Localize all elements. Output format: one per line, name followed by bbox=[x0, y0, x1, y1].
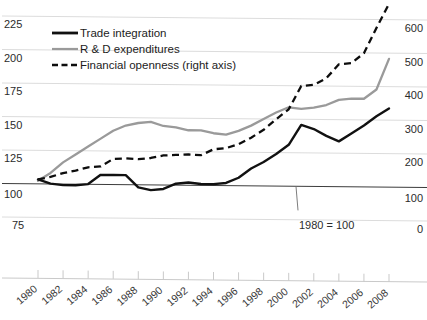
annotation-leader-line bbox=[296, 186, 298, 210]
left-axis-tick-label: 75 bbox=[12, 219, 24, 231]
x-axis-tick-label: 1980 bbox=[14, 282, 40, 306]
chart-container: 22520017515012510075 6005004003002001000… bbox=[0, 0, 427, 320]
x-axis-tick-label: 1998 bbox=[239, 285, 265, 309]
annotation-1980-equals-100: 1980 = 100 bbox=[299, 219, 354, 231]
right-axis-tick-label: 400 bbox=[405, 89, 423, 101]
left-axis-tick-label: 175 bbox=[4, 85, 22, 97]
left-axis-tick-label: 125 bbox=[4, 152, 22, 164]
right-axis-tick-label: 100 bbox=[405, 192, 423, 204]
x-axis-tick-label: 2008 bbox=[365, 286, 391, 310]
series-line-trade-integration bbox=[38, 108, 389, 190]
x-axis-tick-label: 2002 bbox=[289, 285, 315, 309]
gridline bbox=[2, 117, 427, 121]
x-axis-tick-label: 2004 bbox=[315, 286, 341, 310]
x-axis-tick-label: 1990 bbox=[139, 284, 165, 308]
x-axis-tick-label: 1994 bbox=[189, 284, 215, 308]
x-axis-line bbox=[2, 278, 427, 282]
right-axis-tick-label: 600 bbox=[405, 22, 423, 34]
right-axis-tick-label: 500 bbox=[405, 56, 423, 68]
x-axis-line bbox=[2, 270, 427, 282]
left-axis-tick-label: 100 bbox=[4, 188, 22, 200]
right-axis-tick-labels: 6005004003002001000 bbox=[405, 22, 423, 235]
x-axis-tick-labels: 1980198219841986198819901992199419961998… bbox=[14, 282, 391, 310]
x-axis-tick-label: 1988 bbox=[114, 283, 140, 307]
x-axis-tick-label: 1992 bbox=[164, 284, 190, 308]
x-axis-tick-label: 2006 bbox=[340, 286, 366, 310]
right-axis-tick-label: 300 bbox=[405, 123, 423, 135]
x-axis-tick-label: 1984 bbox=[64, 283, 90, 307]
legend: Trade integration R & D expenditures Fin… bbox=[52, 27, 236, 71]
baseline-annotation: 1980 = 100 bbox=[296, 186, 354, 231]
legend-label-trade-integration: Trade integration bbox=[80, 27, 167, 39]
gridlines bbox=[2, 16, 427, 221]
x-axis-tick-label: 1986 bbox=[89, 283, 115, 307]
gridline bbox=[2, 83, 427, 87]
gridline bbox=[2, 150, 427, 154]
right-axis-tick-label: 0 bbox=[417, 223, 423, 235]
x-axis-tick-label: 1996 bbox=[214, 285, 240, 309]
gridline bbox=[2, 217, 427, 221]
left-axis-tick-label: 150 bbox=[4, 119, 22, 131]
right-axis-tick-label: 200 bbox=[405, 156, 423, 168]
x-axis-tick-label: 1982 bbox=[39, 283, 65, 307]
x-axis-tick-label: 2000 bbox=[264, 285, 290, 309]
legend-label-financial-openness: Financial openness (right axis) bbox=[80, 59, 236, 71]
left-axis-tick-label: 200 bbox=[4, 52, 22, 64]
left-axis-tick-label: 225 bbox=[4, 18, 22, 30]
gridline bbox=[2, 16, 427, 20]
line-chart: 22520017515012510075 6005004003002001000… bbox=[0, 0, 427, 320]
legend-label-rnd-expenditures: R & D expenditures bbox=[80, 43, 180, 55]
